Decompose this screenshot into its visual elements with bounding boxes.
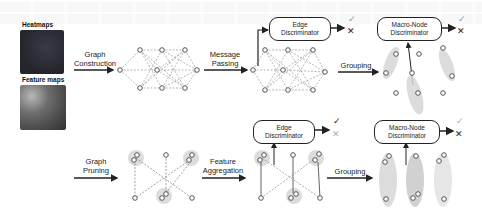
- check-icon: ✓: [458, 15, 466, 24]
- check-icon: ✓: [456, 117, 464, 126]
- check-icon: ✓: [348, 15, 356, 24]
- check-icon: ✓: [333, 117, 341, 126]
- cross-icon: ✕: [332, 130, 340, 139]
- dense-graph-2: [253, 50, 325, 90]
- step-label-grouping-1: Grouping: [336, 61, 376, 70]
- edge-discriminator-2: EdgeDiscriminator: [253, 120, 315, 144]
- step-label-feature-aggregation: Feature Aggregation: [200, 157, 246, 175]
- step-label-graph-pruning: Graph Pruning: [76, 157, 116, 175]
- edge-discriminator-1: EdgeDiscriminator: [269, 17, 331, 41]
- cross-icon: ✕: [457, 27, 465, 36]
- cross-icon: ✕: [347, 27, 355, 36]
- step-label-graph-construction: Graph Construction: [72, 50, 118, 68]
- macro-node-discriminator-1: Macro-NodeDiscriminator: [377, 17, 442, 41]
- step-label-grouping-2: Grouping: [330, 167, 370, 176]
- cross-icon: ✕: [455, 130, 463, 139]
- step-label-message-passing: Message Passing: [203, 50, 247, 68]
- macro-node-discriminator-2: Macro-NodeDiscriminator: [374, 120, 440, 144]
